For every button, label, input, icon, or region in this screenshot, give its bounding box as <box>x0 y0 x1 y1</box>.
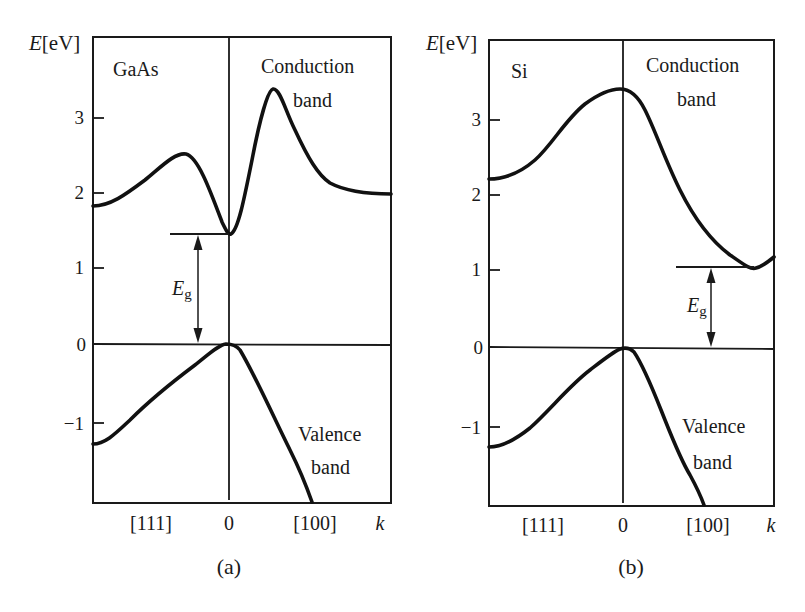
panel-b-ytick-2: 2 <box>472 184 482 205</box>
panel-b-ytick-3: 3 <box>472 109 482 130</box>
panel-b-y-ticks <box>489 120 500 427</box>
panel-a-y-axis-label: E[eV] <box>28 31 80 55</box>
panel-b-gap-arrow-down-icon <box>707 332 716 347</box>
panel-a-ytick-2: 2 <box>75 182 85 203</box>
panel-a-ytick-3: 3 <box>75 107 85 128</box>
panel-a-valence-band-curve <box>93 344 312 502</box>
panel-b-ytick-1: 1 <box>472 259 482 280</box>
panel-a-xtick-100: [100] <box>293 512 336 534</box>
panel-a-xtick-0: 0 <box>224 512 234 534</box>
panel-b-xtick-100: [100] <box>686 514 729 536</box>
panel-b-ytick-0: 0 <box>474 337 484 358</box>
panel-b-conduction-band-curve <box>489 89 774 268</box>
panel-b-gap-label: Eg <box>686 294 707 319</box>
panel-a-x-axis-label: k <box>376 512 386 534</box>
panel-a-ytick-1: 1 <box>75 257 85 278</box>
band-structure-figure: 3 2 1 0 −1 E[eV] Eg GaAs Conduction band… <box>0 0 805 612</box>
panel-a-ytick-minus1: −1 <box>64 413 84 434</box>
panel-a-xtick-111: [111] <box>130 512 172 534</box>
panel-a-gap-arrow-up-icon <box>194 235 203 250</box>
panel-b-valence-band-curve <box>489 348 704 505</box>
panel-b-valence-label-line2: band <box>693 451 732 473</box>
panel-a-material-label: GaAs <box>113 58 159 80</box>
panel-b-conduction-label-line2: band <box>677 88 716 110</box>
panel-b-ytick-minus1: −1 <box>461 417 481 438</box>
panel-a-valence-label-line1: Valence <box>298 423 361 445</box>
panel-a-e0-line <box>93 344 391 345</box>
panel-b-y-axis-label: E[eV] <box>425 31 477 55</box>
panel-a-caption: (a) <box>217 554 241 579</box>
panel-b-si: 3 2 1 0 −1 E[eV] Eg Si Conduction band V… <box>425 31 777 579</box>
panel-b-x-axis-label: k <box>767 514 777 536</box>
panel-a-ytick-0: 0 <box>77 334 87 355</box>
panel-b-gap-arrow-up-icon <box>707 268 716 283</box>
panel-b-xtick-0: 0 <box>618 514 628 536</box>
panel-b-xtick-111: [111] <box>522 514 564 536</box>
panel-b-material-label: Si <box>511 60 528 82</box>
panel-a-valence-label-line2: band <box>311 456 350 478</box>
panel-a-gaas: 3 2 1 0 −1 E[eV] Eg GaAs Conduction band… <box>28 31 391 579</box>
panel-a-gap-arrow-down-icon <box>194 328 203 343</box>
panel-a-conduction-band-curve <box>93 89 391 234</box>
panel-a-gap-label: Eg <box>171 277 192 302</box>
panel-b-conduction-label-line1: Conduction <box>646 54 739 76</box>
panel-a-y-ticks <box>93 118 104 423</box>
panel-b-valence-label-line1: Valence <box>682 415 745 437</box>
panel-a-conduction-label-line2: band <box>293 89 332 111</box>
panel-b-caption: (b) <box>618 554 644 579</box>
panel-a-conduction-label-line1: Conduction <box>261 55 354 77</box>
